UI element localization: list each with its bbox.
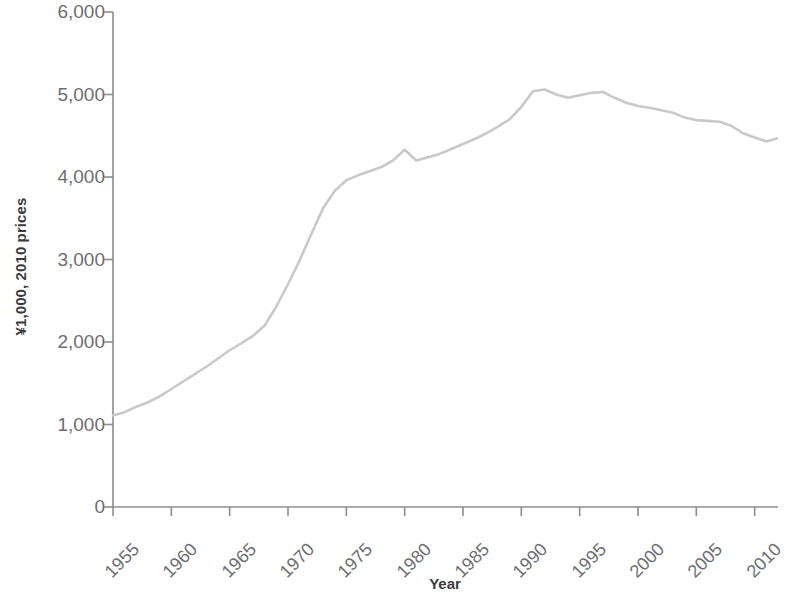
data-series-line [113,90,778,416]
tick-marks [104,12,755,516]
axis-lines [113,12,778,507]
